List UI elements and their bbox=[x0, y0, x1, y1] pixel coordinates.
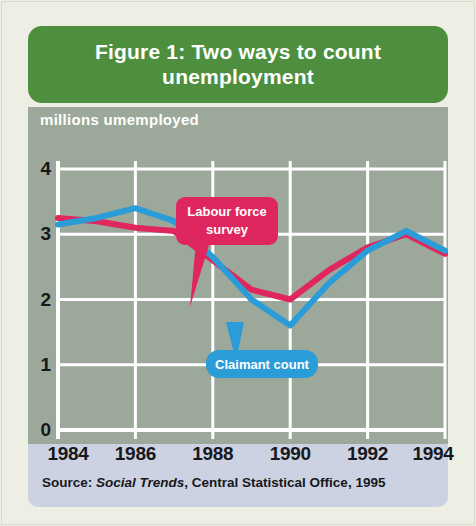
figure-title-bar: Figure 1: Two ways to count unemployment bbox=[28, 26, 448, 103]
x-tick-label: 1986 bbox=[115, 443, 156, 465]
figure-card: Figure 1: Two ways to count unemployment… bbox=[28, 26, 448, 486]
plot-area: Labour force survey Claimant count bbox=[28, 107, 448, 444]
callout-lfs-label-line-1: Labour force bbox=[187, 204, 266, 219]
y-tick-label: 1 bbox=[40, 354, 51, 376]
x-tick-label: 1984 bbox=[47, 443, 88, 465]
source-prefix: Source: bbox=[42, 475, 92, 490]
chart-panel: millions umemployed Labour force survey bbox=[28, 107, 448, 444]
y-tick-label: 4 bbox=[40, 158, 51, 180]
x-tick-label: 1994 bbox=[412, 443, 453, 465]
x-tick-label: 1988 bbox=[192, 443, 233, 465]
callout-cc-label: Claimant count bbox=[215, 357, 310, 372]
source-note: Source: Social Trends, Central Statistic… bbox=[42, 475, 385, 490]
y-tick-label: 3 bbox=[40, 223, 51, 245]
y-tick-label: 2 bbox=[40, 289, 51, 311]
source-rest: , Central Statistical Office, 1995 bbox=[184, 475, 385, 490]
line-chart-svg: Labour force survey Claimant count bbox=[28, 107, 448, 444]
figure-root: Figure 1: Two ways to count unemployment… bbox=[0, 0, 476, 526]
source-publication: Social Trends bbox=[96, 475, 184, 490]
figure-title: Figure 1: Two ways to count unemployment bbox=[95, 40, 381, 90]
figure-title-line-1: Figure 1: Two ways to count bbox=[95, 40, 381, 63]
figure-title-line-2: unemployment bbox=[162, 65, 314, 88]
x-axis-tick-labels: 198419861988199019921994 bbox=[28, 443, 448, 469]
figure-footer-panel: 198419861988199019921994 Source: Social … bbox=[28, 444, 448, 507]
callout-claimant-count: Claimant count bbox=[206, 322, 318, 378]
x-tick-label: 1990 bbox=[270, 443, 311, 465]
callout-lfs-label-line-2: survey bbox=[206, 222, 249, 237]
x-tick-label: 1992 bbox=[347, 443, 388, 465]
y-tick-label: 0 bbox=[40, 419, 51, 441]
callout-lfs-pointer bbox=[190, 242, 210, 307]
